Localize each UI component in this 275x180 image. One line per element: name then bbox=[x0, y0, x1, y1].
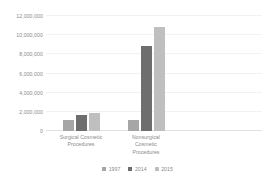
legend-item[interactable]: 2015 bbox=[155, 166, 173, 172]
bars-layer bbox=[46, 16, 262, 131]
y-axis-tick-label: 6,000,000 bbox=[19, 71, 43, 77]
x-axis: Surgical CosmeticProceduresNonsurgicalCo… bbox=[46, 134, 262, 162]
legend-label: 2015 bbox=[161, 166, 173, 172]
legend-item[interactable]: 2014 bbox=[128, 166, 146, 172]
bar bbox=[63, 120, 74, 131]
bar bbox=[128, 120, 139, 131]
y-axis-tick-label: 10,000,000 bbox=[16, 32, 43, 38]
legend-swatch-icon bbox=[102, 167, 106, 171]
x-axis-category-label-line: Cosmetic bbox=[106, 141, 186, 148]
bar-group bbox=[63, 16, 100, 131]
bar bbox=[89, 113, 100, 131]
legend-swatch-icon bbox=[128, 167, 132, 171]
x-axis-category-label-line: Procedures bbox=[106, 149, 186, 156]
legend-swatch-icon bbox=[155, 167, 159, 171]
legend-label: 1997 bbox=[109, 166, 121, 172]
chart-legend: 199720142015 bbox=[0, 166, 275, 172]
x-axis-category-label: NonsurgicalCosmeticProcedures bbox=[106, 134, 186, 156]
legend-item[interactable]: 1997 bbox=[102, 166, 120, 172]
y-axis-tick-label: 2,000,000 bbox=[19, 109, 43, 115]
bar bbox=[141, 46, 152, 131]
bar-group bbox=[128, 16, 165, 131]
bar bbox=[154, 27, 165, 131]
bar bbox=[76, 115, 87, 131]
bar-chart: 02,000,0004,000,0006,000,0008,000,00010,… bbox=[0, 0, 275, 180]
legend-label: 2014 bbox=[135, 166, 147, 172]
y-axis-tick-label: 12,000,000 bbox=[16, 13, 43, 19]
x-axis-category-label-line: Nonsurgical bbox=[106, 134, 186, 141]
y-axis-tick-label: 4,000,000 bbox=[19, 90, 43, 96]
y-axis: 02,000,0004,000,0006,000,0008,000,00010,… bbox=[0, 16, 43, 131]
y-axis-tick-label: 8,000,000 bbox=[19, 51, 43, 57]
